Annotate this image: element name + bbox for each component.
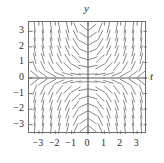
slope-segment: [96, 94, 104, 102]
x-tick-label: 3: [126, 138, 146, 148]
slope-segment: [30, 78, 39, 85]
y-tick-label: 2: [0, 41, 24, 51]
slope-segment: [96, 55, 104, 63]
y-tick-label: 1: [0, 56, 24, 66]
slope-segment: [87, 32, 96, 38]
slope-segment: [30, 71, 39, 78]
direction-field: [29, 22, 147, 134]
y-axis-title: y: [84, 3, 89, 14]
slope-segment: [79, 40, 89, 46]
slope-segment: [87, 40, 97, 46]
y-tick-label: 3: [0, 25, 24, 35]
slope-segment: [71, 64, 81, 69]
slope-segment: [87, 110, 97, 116]
slope-segment: [137, 78, 146, 85]
slope-segment: [71, 87, 81, 92]
slope-segment: [79, 118, 88, 124]
x-axis-title: t: [150, 71, 153, 82]
slope-field-figure: y t −3−2−10123 −3−2−10123: [0, 0, 164, 163]
slope-segment: [63, 86, 71, 94]
slope-segment: [80, 24, 89, 31]
slope-segment: [79, 110, 89, 116]
slope-segment: [104, 86, 112, 94]
y-tick-label: −2: [0, 103, 24, 113]
slope-segment: [95, 64, 105, 69]
slope-segment: [95, 87, 105, 92]
plot-frame: [28, 21, 146, 133]
slope-segment: [104, 63, 112, 71]
slope-segment: [87, 74, 98, 75]
slope-segment: [137, 71, 146, 78]
slope-segment: [72, 94, 80, 102]
slope-segment: [88, 125, 97, 132]
slope-segment: [87, 118, 96, 124]
slope-segment: [80, 125, 89, 132]
slope-segment: [88, 24, 97, 31]
slope-segment: [79, 32, 88, 38]
y-tick-label: −1: [0, 88, 24, 98]
slope-segment: [72, 55, 80, 63]
slope-segment: [63, 63, 71, 71]
y-tick-label: −3: [0, 119, 24, 129]
y-tick-label: 0: [0, 72, 24, 82]
slope-segment: [87, 82, 98, 83]
